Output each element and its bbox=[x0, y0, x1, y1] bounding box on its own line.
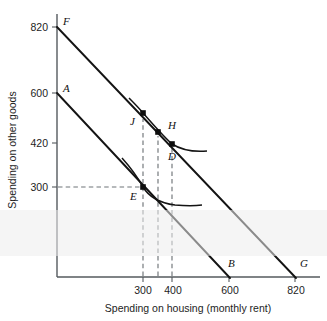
point-E-marker bbox=[140, 184, 146, 190]
budget-lines-group bbox=[57, 27, 296, 278]
x-tick-label-400: 400 bbox=[164, 284, 182, 296]
point-H-marker bbox=[155, 129, 161, 135]
budget-line-FG bbox=[57, 27, 296, 278]
x-axis-title: Spending on housing (monthly rent) bbox=[105, 302, 271, 314]
label-A: A bbox=[62, 82, 70, 94]
axis-group bbox=[57, 14, 320, 277]
economics-indifference-curve-figure: 820 600 420 300 300 400 600 820 F A B G … bbox=[0, 0, 327, 321]
y-tick-label-820: 820 bbox=[30, 21, 48, 33]
y-tick-label-600: 600 bbox=[30, 87, 48, 99]
x-tick-label-300: 300 bbox=[134, 284, 152, 296]
label-G: G bbox=[300, 257, 308, 269]
chart-canvas: 820 600 420 300 300 400 600 820 F A B G … bbox=[0, 0, 327, 321]
label-E: E bbox=[129, 190, 137, 202]
label-B: B bbox=[228, 257, 235, 269]
x-axis-ticks bbox=[143, 277, 295, 282]
point-D-marker bbox=[169, 141, 175, 147]
point-J-marker bbox=[140, 110, 146, 116]
x-tick-label-820: 820 bbox=[287, 284, 305, 296]
y-tick-label-300: 300 bbox=[30, 181, 48, 193]
label-H: H bbox=[167, 119, 177, 131]
y-tick-labels: 820 600 420 300 bbox=[30, 21, 48, 193]
label-J: J bbox=[130, 115, 136, 127]
y-tick-label-420: 420 bbox=[30, 137, 48, 149]
label-D: D bbox=[167, 150, 176, 162]
y-axis-ticks bbox=[52, 27, 57, 187]
label-F: F bbox=[62, 15, 70, 27]
x-tick-labels: 300 400 600 820 bbox=[134, 284, 305, 296]
y-axis-title: Spending on other goods bbox=[6, 91, 18, 208]
x-tick-label-600: 600 bbox=[221, 284, 239, 296]
